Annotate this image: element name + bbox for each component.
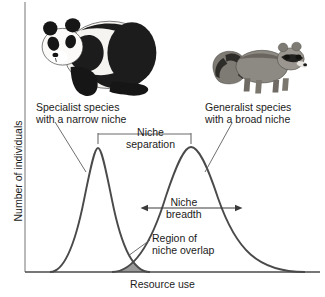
y-axis-label: Number of individuals (12, 86, 24, 256)
niche-separation-line2: separation (126, 138, 175, 150)
generalist-label-line1: Generalist species (205, 101, 291, 113)
overlap-leader-line (128, 240, 150, 256)
specialist-leader-line (55, 122, 86, 172)
figure-container: Specialist species with a narrow niche G… (0, 0, 325, 297)
specialist-species-label: Specialist species with a narrow niche (36, 101, 126, 125)
specialist-label-line1: Specialist species (36, 101, 126, 113)
niche-breadth-label: Niche breadth (166, 196, 202, 220)
niche-breadth-line2: breadth (166, 208, 202, 220)
generalist-species-label: Generalist species with a broad niche (205, 101, 291, 125)
specialist-label-line2: with a narrow niche (36, 113, 126, 125)
specialist-animal-image (42, 18, 156, 96)
generalist-leader-line (205, 123, 232, 172)
niche-overlap-label: Region of niche overlap (152, 232, 214, 256)
x-axis-label: Resource use (0, 278, 325, 290)
niche-overlap-region (50, 148, 150, 272)
specialist-curve (50, 148, 150, 272)
overlap-label-line2: niche overlap (152, 244, 214, 256)
generalist-animal-image (213, 42, 307, 93)
generalist-label-line2: with a broad niche (205, 113, 291, 125)
niche-breadth-line1: Niche (166, 196, 202, 208)
niche-separation-line1: Niche (126, 126, 175, 138)
overlap-label-line1: Region of (152, 232, 214, 244)
niche-separation-label: Niche separation (126, 126, 175, 150)
